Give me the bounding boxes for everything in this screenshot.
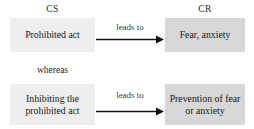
arrow-right-icon: [96, 35, 164, 44]
conditioning-diagram: CS CR Prohibited act leads to Fear, anxi…: [0, 0, 254, 129]
arrow-label-row-2: leads to: [96, 90, 164, 100]
column-label-cr: CR: [165, 4, 245, 14]
arrow-right-icon: [96, 107, 164, 116]
stimulus-box-row-2: Inhibiting the prohibited act: [10, 84, 95, 125]
arrow-row-1: leads to: [96, 22, 164, 44]
response-box-row-2: Prevention of fear or anxiety: [165, 84, 245, 125]
arrow-label-row-1: leads to: [96, 22, 164, 32]
arrow-row-2: leads to: [96, 90, 164, 116]
response-box-row-1: Fear, anxiety: [165, 18, 245, 52]
connector-label-whereas: whereas: [10, 65, 95, 75]
stimulus-box-row-1: Prohibited act: [10, 18, 95, 52]
column-label-cs: CS: [10, 4, 95, 14]
